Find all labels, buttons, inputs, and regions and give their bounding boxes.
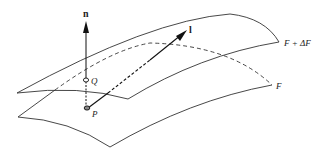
arrow-diagonal-icon [176,30,187,41]
normal-vector [83,21,89,108]
label-surface-upper: F + ΔF [283,38,311,48]
surface-upper [17,14,279,99]
label-surface-lower: F [275,81,282,91]
gradient-diagram: n l Q P F + ΔF F [0,0,332,153]
direction-vector [88,30,187,108]
arrow-up-icon [83,21,89,33]
label-n: n [83,8,89,19]
surface-lower [18,43,272,147]
point-q-marker [83,78,88,82]
label-l: l [189,24,192,35]
label-p: P [91,109,98,119]
point-p-marker [84,106,90,110]
label-q: Q [91,76,98,86]
